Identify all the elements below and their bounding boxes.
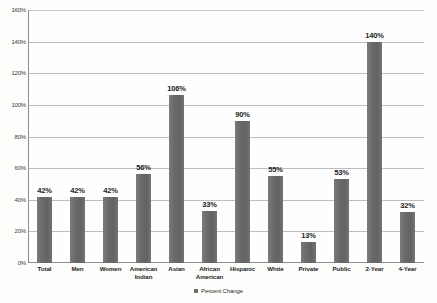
bar-value-label: 32% <box>400 201 414 210</box>
bar[interactable]: 90% <box>235 121 250 263</box>
bar-value-label: 13% <box>301 231 315 240</box>
bar-slot: 90% <box>226 10 259 263</box>
x-axis-category-label: Men <box>61 265 94 282</box>
bar-value-label: 53% <box>334 168 348 177</box>
bar-slot: 42% <box>61 10 94 263</box>
bar-value-label: 140% <box>365 31 383 40</box>
bar[interactable]: 56% <box>136 174 151 263</box>
bar[interactable]: 42% <box>37 197 52 263</box>
y-axis-tick-label: 60% <box>0 165 26 171</box>
y-axis-tick-label: 100% <box>0 102 26 108</box>
bars-layer: 42%42%42%56%106%33%90%55%13%53%140%32% <box>28 10 424 263</box>
x-axis-category-label: 2-Year <box>358 265 391 282</box>
bar-slot: 13% <box>292 10 325 263</box>
bar[interactable]: 33% <box>202 211 217 263</box>
bar-value-label: 106% <box>167 84 185 93</box>
legend-swatch-icon <box>194 289 198 293</box>
bar-value-label: 56% <box>136 163 150 172</box>
x-axis-category-label: Public <box>325 265 358 282</box>
bar[interactable]: 13% <box>301 242 316 263</box>
x-axis-category-label: White <box>259 265 292 282</box>
y-axis-tick-label: 40% <box>0 197 26 203</box>
bar-slot: 53% <box>325 10 358 263</box>
legend-label: Percent Change <box>201 288 243 294</box>
x-axis-category-label: Total <box>28 265 61 282</box>
chart-legend: Percent Change <box>0 288 437 294</box>
bar-slot: 42% <box>94 10 127 263</box>
y-axis-tick-label: 80% <box>0 134 26 140</box>
bar-value-label: 42% <box>103 186 117 195</box>
y-axis-tick-label: 0% <box>0 260 26 266</box>
x-axis-category-label: American Indian <box>127 265 160 282</box>
x-axis-category-label: Private <box>292 265 325 282</box>
bar-value-label: 33% <box>202 200 216 209</box>
y-axis-tick-label: 120% <box>0 70 26 76</box>
bar[interactable]: 42% <box>103 197 118 263</box>
bar[interactable]: 140% <box>367 42 382 263</box>
x-axis-category-label: Hispanic <box>226 265 259 282</box>
bar[interactable]: 106% <box>169 95 184 263</box>
bar-slot: 106% <box>160 10 193 263</box>
x-axis-category-label: 4-Year <box>391 265 424 282</box>
bar-slot: 42% <box>28 10 61 263</box>
bar-slot: 56% <box>127 10 160 263</box>
x-axis-labels: TotalMenWomenAmerican IndianAsianAfrican… <box>28 265 424 282</box>
bar-slot: 55% <box>259 10 292 263</box>
y-axis-tick-label: 20% <box>0 228 26 234</box>
bar-value-label: 42% <box>37 186 51 195</box>
y-axis-tick-label: 160% <box>0 7 26 13</box>
bar-slot: 140% <box>358 10 391 263</box>
bar[interactable]: 55% <box>268 176 283 263</box>
bar[interactable]: 42% <box>70 197 85 263</box>
bar-value-label: 42% <box>70 186 84 195</box>
bar-slot: 33% <box>193 10 226 263</box>
bar-value-label: 55% <box>268 165 282 174</box>
y-axis-tick-label: 140% <box>0 39 26 45</box>
bar[interactable]: 32% <box>400 212 415 263</box>
x-axis-category-label: Women <box>94 265 127 282</box>
bar-slot: 32% <box>391 10 424 263</box>
bar-value-label: 90% <box>235 110 249 119</box>
bar-chart: 0%20%40%60%80%100%120%140%160% 42%42%42%… <box>0 0 437 303</box>
x-axis-category-label: African American <box>193 265 226 282</box>
x-axis-category-label: Asian <box>160 265 193 282</box>
bar[interactable]: 53% <box>334 179 349 263</box>
